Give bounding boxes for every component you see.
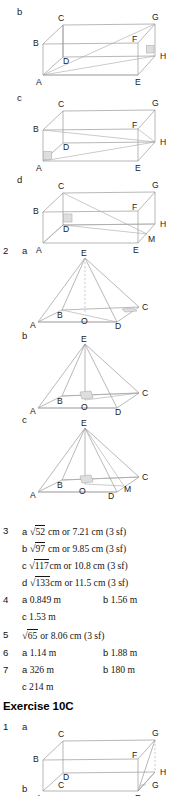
vertex-label-D: D <box>63 224 69 234</box>
answer-letter: d <box>22 577 27 588</box>
vertex-label-A: A <box>30 490 36 500</box>
answer-text: 1.56 m <box>111 594 138 605</box>
surd-value: √65 <box>22 629 38 641</box>
vertex-label-C: C <box>142 302 148 312</box>
answer-letter: b <box>22 543 27 554</box>
vertex-label-B: B <box>33 38 39 48</box>
vertex-label-E: E <box>81 248 87 258</box>
surd-value: √117 <box>29 559 49 571</box>
question-number-3: 3 <box>3 525 8 536</box>
question-number-7: 7 <box>3 664 8 675</box>
answer-4c: c 1.53 m <box>22 611 56 622</box>
pyramid-diagram-b: E B C A O D <box>0 334 178 416</box>
answer-4b: b 1.56 m <box>103 594 137 605</box>
answer-letter: c <box>22 681 27 692</box>
vertex-label-F: F <box>132 120 137 130</box>
answer-text: 1.53 m <box>29 611 56 622</box>
vertex-label-E: E <box>81 418 87 428</box>
vertex-label-G: G <box>152 12 159 22</box>
answer-7b: b 180 m <box>103 664 135 675</box>
answer-7c: c 214 m <box>22 681 53 692</box>
answer-text: cm or 9.85 cm (3 sf) <box>45 543 126 554</box>
answer-5: √65 or 8.06 cm (3 sf) <box>22 629 104 641</box>
cuboid-diagram-b: C G B F D H A E <box>0 0 178 88</box>
answer-text: cm or 7.21 cm (3 sf) <box>45 526 126 537</box>
vertex-label-A: A <box>30 320 36 330</box>
answer-letter: a <box>22 526 27 537</box>
vertex-label-C: C <box>142 388 148 398</box>
vertex-label-H: H <box>160 767 166 777</box>
answer-text: 180 m <box>111 664 135 675</box>
vertex-label-F: F <box>132 750 137 760</box>
answer-text: 1.14 m <box>30 647 57 658</box>
surd-value: √133 <box>30 576 51 588</box>
answer-6b: b 1.88 m <box>103 647 137 658</box>
answer-7a: a 326 m <box>22 664 54 675</box>
vertex-label-H: H <box>160 51 166 61</box>
answer-text: cm or 10.8 cm (3 sf) <box>49 560 127 571</box>
vertex-label-H: H <box>160 137 166 147</box>
vertex-label-F: F <box>132 202 137 212</box>
answer-text: 1.88 m <box>111 647 138 658</box>
answer-3a: a √52 cm or 7.21 cm (3 sf) <box>22 525 126 537</box>
vertex-label-C: C <box>142 472 148 482</box>
answer-letter: a <box>22 647 27 658</box>
answer-letter: b <box>103 594 108 605</box>
vertex-label-G: G <box>152 180 159 190</box>
question-number-6: 6 <box>3 647 8 658</box>
answer-letter: a <box>22 664 27 675</box>
vertex-label-C: C <box>58 780 64 790</box>
surd-value: √52 <box>30 525 46 537</box>
vertex-label-D: D <box>115 407 121 417</box>
cuboid-diagram-d: C G B F D H A E M <box>0 168 178 256</box>
answer-text: cm or 11.5 cm (3 sf) <box>50 577 128 588</box>
vertex-label-B: B <box>33 754 39 764</box>
vertex-label-C: C <box>58 729 64 739</box>
vertex-label-M: M <box>148 234 155 244</box>
vertex-label-O: O <box>79 486 86 496</box>
vertex-label-E: E <box>81 334 87 344</box>
answer-letter: c <box>22 611 27 622</box>
answer-text: or 8.06 cm (3 sf) <box>38 630 105 641</box>
pyramid-diagram-c: E B C A O M D <box>0 418 178 500</box>
cuboid-diagram-c: C G B F D H A E <box>0 86 178 174</box>
vertex-label-G: G <box>152 780 159 790</box>
answer-3c: c √117cm or 10.8 cm (3 sf) <box>22 559 128 571</box>
vertex-label-B: B <box>33 124 39 134</box>
vertex-label-B: B <box>33 206 39 216</box>
answer-3d: d √133cm or 11.5 cm (3 sf) <box>22 576 128 588</box>
vertex-label-O: O <box>81 402 88 412</box>
vertex-label-O: O <box>81 316 88 326</box>
answer-letter: c <box>22 560 27 571</box>
answer-4a: a 0.849 m <box>22 594 61 605</box>
vertex-label-G: G <box>152 98 159 108</box>
vertex-label-H: H <box>160 219 166 229</box>
vertex-label-M: M <box>124 484 131 494</box>
vertex-label-B: B <box>57 310 63 320</box>
vertex-label-D: D <box>108 491 114 501</box>
answer-text: 214 m <box>29 681 53 692</box>
surd-value: √97 <box>30 542 46 554</box>
answer-text: 0.849 m <box>30 594 61 605</box>
vertex-label-B: B <box>57 396 63 406</box>
answer-letter: b <box>103 664 108 675</box>
partial-diagram-bottom: C G <box>0 778 178 795</box>
answer-6a: a 1.14 m <box>22 647 56 658</box>
pyramid-diagram-a: E B C A O D <box>0 248 178 330</box>
answer-3b: b √97 cm or 9.85 cm (3 sf) <box>22 542 126 554</box>
vertex-label-C: C <box>58 99 64 109</box>
question-number-4: 4 <box>3 594 8 605</box>
vertex-label-F: F <box>132 34 137 44</box>
vertex-label-B: B <box>57 480 63 490</box>
exercise-heading: Exercise 10C <box>3 700 73 712</box>
answer-letter: b <box>103 647 108 658</box>
vertex-label-D: D <box>115 321 121 331</box>
vertex-label-A: A <box>30 406 36 416</box>
vertex-label-C: C <box>58 13 64 23</box>
vertex-label-D: D <box>63 56 69 66</box>
answer-text: 326 m <box>30 664 54 675</box>
question-number-5: 5 <box>3 629 8 640</box>
answer-letter: a <box>22 594 27 605</box>
vertex-label-G: G <box>152 728 159 738</box>
